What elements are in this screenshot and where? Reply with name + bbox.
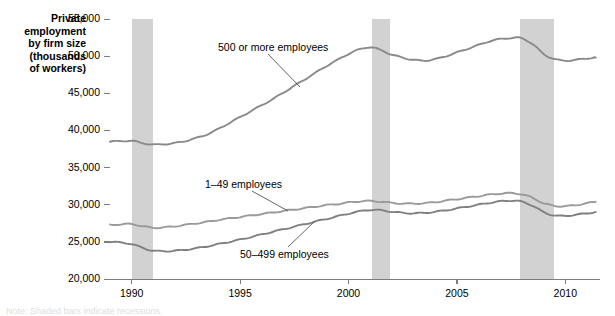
x-axis-tick	[456, 279, 457, 284]
x-axis-tick	[565, 279, 566, 284]
x-axis-tick-label: 2000	[323, 287, 373, 299]
series-line	[110, 201, 596, 252]
series-line	[110, 37, 596, 144]
x-axis-tick	[240, 279, 241, 284]
x-axis-tick-label: 2010	[540, 287, 590, 299]
x-axis-tick-label: 1995	[215, 287, 265, 299]
y-axis-tick-label: 20,000	[50, 272, 100, 284]
y-axis-title-line-4: of workers)	[8, 62, 86, 75]
y-axis-tick-label: 55,000	[50, 12, 100, 24]
x-axis-tick	[131, 279, 132, 284]
x-axis-line	[110, 279, 600, 280]
y-axis-tick-label: 35,000	[50, 161, 100, 173]
series-line	[110, 193, 596, 229]
y-axis-title-line-2: by firm size	[8, 37, 86, 50]
y-axis-title-line-1: employment	[8, 25, 86, 38]
y-axis-tick-label: 30,000	[50, 198, 100, 210]
y-axis-tick-label: 45,000	[50, 86, 100, 98]
y-axis-tick-label: 40,000	[50, 123, 100, 135]
series-label: 50–499 employees	[240, 248, 329, 260]
y-axis-tick-label: 50,000	[50, 49, 100, 61]
plot-area	[110, 19, 600, 279]
series-label: 500 or more employees	[218, 41, 328, 53]
x-axis-tick-label: 1990	[107, 287, 157, 299]
series-label: 1–49 employees	[205, 178, 282, 190]
series-lines	[110, 19, 600, 279]
y-axis-tick-label: 25,000	[50, 235, 100, 247]
x-axis-tick	[348, 279, 349, 284]
figure-caption-sliver: Note: Shaded bars indicate recessions.	[6, 306, 163, 316]
x-axis-tick-label: 2005	[432, 287, 482, 299]
